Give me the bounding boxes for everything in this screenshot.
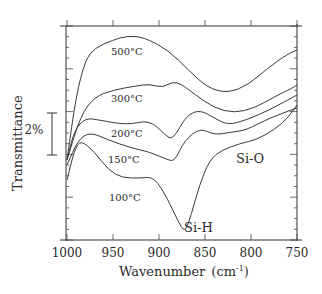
curve-label-150c: 150°C	[108, 154, 140, 165]
scale-bar: 2%	[24, 113, 57, 155]
x-tick-label: 800	[240, 246, 263, 260]
x-tick-label: 900	[148, 246, 171, 260]
spectra-curves	[67, 36, 297, 229]
chart-svg: 2% 500°C 300°C 200°C 150°C 100°C Si-H Si…	[0, 0, 322, 294]
x-tick-label: 750	[286, 246, 309, 260]
axis-ticks	[66, 20, 297, 240]
curve-label-500c: 500°C	[111, 46, 143, 57]
y-axis-title: Transmittance	[10, 95, 25, 191]
curve-label-100c: 100°C	[109, 192, 141, 203]
si-o-band-label: Si-O	[236, 151, 264, 166]
ftir-transmittance-chart: 2% 500°C 300°C 200°C 150°C 100°C Si-H Si…	[0, 0, 322, 294]
x-axis-title: Wavenumber(cm-1)	[119, 264, 249, 279]
x-tick-label: 850	[194, 246, 217, 260]
x-tick-labels: 1000950900850800750	[52, 246, 309, 260]
x-tick-label: 950	[102, 246, 125, 260]
scale-bar-label: 2%	[24, 123, 43, 137]
curve-500c	[67, 36, 297, 160]
curve-label-200c: 200°C	[111, 128, 143, 139]
si-h-band-label: Si-H	[184, 220, 213, 235]
x-tick-label: 1000	[52, 246, 83, 260]
curve-label-300c: 300°C	[111, 93, 143, 104]
